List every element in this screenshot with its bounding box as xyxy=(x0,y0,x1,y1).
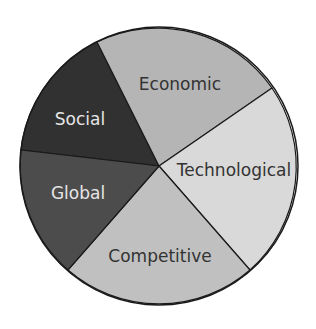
label-competitive: Competitive xyxy=(108,246,211,266)
label-social: Social xyxy=(55,109,105,129)
label-economic: Economic xyxy=(139,74,221,94)
pie-diagram: Social Economic Technological Competitiv… xyxy=(0,0,316,329)
label-technological: Technological xyxy=(176,160,291,180)
label-global: Global xyxy=(51,183,105,203)
